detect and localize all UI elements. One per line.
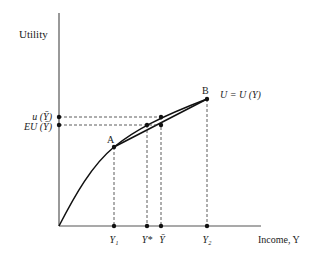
expected-utility-diagram: Utility u (Ȳ) EU (Ȳ) A B U = U (Y) Y₁ Y*…: [0, 0, 321, 255]
point-a-label: A: [107, 134, 115, 145]
tick-y1: [112, 224, 116, 228]
y-axis-label: Utility: [19, 28, 48, 40]
tick-y2: [205, 224, 209, 228]
ybar-label: Ȳ: [159, 234, 166, 245]
point-a: [112, 145, 116, 149]
x-axis-label: Income, Y: [258, 234, 300, 245]
tick-ybar: [159, 224, 163, 228]
tick-u-ybar: [57, 115, 61, 119]
point-ystar-chord: [145, 123, 149, 127]
eu-ybar-label: EU (Ȳ): [23, 121, 53, 133]
point-b-label: B: [202, 85, 209, 96]
y2-label: Y₂: [202, 234, 212, 245]
tick-ystar: [145, 224, 149, 228]
point-b: [205, 97, 209, 101]
curve-label: U = U (Y): [220, 89, 262, 101]
point-u-ybar-curve: [159, 115, 163, 119]
point-ybar-chord: [159, 123, 163, 127]
y1-label: Y₁: [109, 234, 118, 245]
tick-eu-ybar: [57, 123, 61, 127]
ystar-label: Y*: [142, 234, 153, 245]
utility-curve: [59, 99, 207, 226]
